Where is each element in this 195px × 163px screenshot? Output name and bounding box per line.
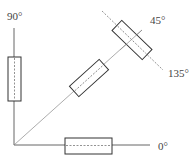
rect-90	[8, 57, 21, 101]
label-135: 135°	[168, 67, 189, 79]
rect-45	[69, 59, 108, 96]
rect-135	[112, 20, 152, 59]
label-0: 0°	[158, 140, 168, 152]
label-45: 45°	[150, 14, 165, 26]
rect-0	[65, 138, 112, 154]
polarizer-diagram: 90° 45° 135° 0°	[0, 0, 195, 163]
label-90: 90°	[7, 10, 22, 22]
